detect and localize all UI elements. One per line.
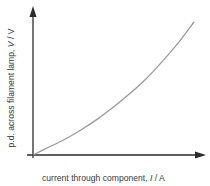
x-axis-label: current through component, I / A: [42, 173, 165, 183]
x-axis-arrowhead-icon: [195, 152, 206, 159]
vi-characteristic-chart: p.d. across filament lamp, V / V current…: [0, 0, 210, 186]
y-axis-arrowhead-icon: [30, 6, 37, 17]
y-axis-label: p.d. across filament lamp, V / V: [6, 28, 16, 147]
filament-lamp-curve: [33, 22, 194, 155]
